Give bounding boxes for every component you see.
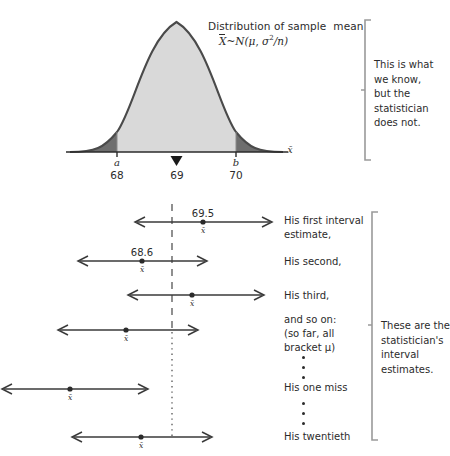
ellipsis-upper xyxy=(296,356,310,386)
ellipsis-dot xyxy=(302,376,305,379)
interval-value-1: 69.5 xyxy=(189,207,217,220)
interval-xbar-2: x̄ xyxy=(135,265,149,275)
figure-canvas: Distribution of sample mean X~N(μ, σ2/n)… xyxy=(0,0,450,456)
sample-mean-dot-5 xyxy=(67,386,72,391)
interval-label-3: His third, xyxy=(284,289,329,303)
interval-label-5: His one miss xyxy=(284,381,347,395)
ellipsis-dot xyxy=(302,366,305,369)
interval-label-1: His first interval estimate, xyxy=(284,214,364,242)
interval-value-2: 68.6 xyxy=(128,246,156,259)
ellipsis-lower xyxy=(296,402,310,432)
interval-rows-layer xyxy=(0,0,450,456)
sample-mean-dot-4 xyxy=(123,327,128,332)
sample-mean-dot-3 xyxy=(189,292,194,297)
interval-label-6: His twentieth xyxy=(284,430,350,444)
interval-xbar-6: x̄ xyxy=(134,441,148,451)
interval-xbar-3: x̄ xyxy=(185,299,199,309)
interval-xbar-5: x̄ xyxy=(63,393,77,403)
ellipsis-dot xyxy=(302,356,305,359)
interval-label-2: His second, xyxy=(284,255,342,269)
interval-xbar-1: x̄ xyxy=(196,226,210,236)
ellipsis-dot xyxy=(302,422,305,425)
interval-xbar-4: x̄ xyxy=(119,334,133,344)
ellipsis-dot xyxy=(302,412,305,415)
ellipsis-dot xyxy=(302,402,305,405)
interval-label-4: and so on: (so far, all bracket μ) xyxy=(284,313,336,356)
sample-mean-dot-6 xyxy=(138,434,143,439)
